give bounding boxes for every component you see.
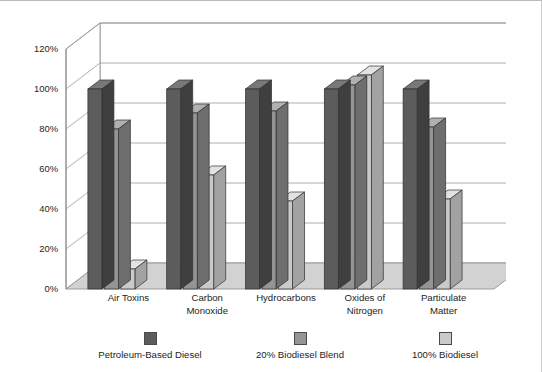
y-tick-label: 120% xyxy=(18,44,58,54)
y-tick-label: 100% xyxy=(18,84,58,94)
bar-side-face xyxy=(260,80,272,289)
legend-item[interactable]: 100% Biodiesel xyxy=(370,332,520,360)
legend-swatch-icon xyxy=(294,332,307,345)
legend-swatch-icon xyxy=(144,332,157,345)
y-tick-label: 20% xyxy=(18,244,58,254)
bar-2-0 xyxy=(246,80,272,289)
bar-side-face xyxy=(417,80,429,289)
x-category-label-line: Particulate xyxy=(396,291,492,304)
bar-4-0 xyxy=(403,80,429,289)
bar-0-0 xyxy=(88,80,114,289)
y-tick-label: 60% xyxy=(18,164,58,174)
bar-side-face xyxy=(355,76,367,289)
bar-side-face xyxy=(450,190,462,289)
legend-label: 20% Biodiesel Blend xyxy=(225,349,375,360)
legend-item[interactable]: 20% Biodiesel Blend xyxy=(225,332,375,360)
plot-svg xyxy=(58,15,506,301)
bar-side-face xyxy=(118,120,130,289)
plot-area xyxy=(58,15,506,301)
bar-side-face xyxy=(102,80,114,289)
bar-front-face xyxy=(246,89,260,289)
y-tick-label: 80% xyxy=(18,124,58,134)
bar-front-face xyxy=(324,89,338,289)
bar-side-face xyxy=(197,104,209,289)
x-category-label: ParticulateMatter xyxy=(396,291,492,317)
bar-front-face xyxy=(167,89,181,289)
bar-front-face xyxy=(403,89,417,289)
bar-front-face xyxy=(88,89,102,289)
x-category-label-line: Matter xyxy=(396,304,492,317)
y-tick-label: 0% xyxy=(18,284,58,294)
legend-swatch-icon xyxy=(439,332,452,345)
bar-side-face xyxy=(181,80,193,289)
bar-side-face xyxy=(434,118,446,289)
x-category-label-line: Monoxide xyxy=(159,304,255,317)
legend-item[interactable]: Petroleum-Based Diesel xyxy=(75,332,225,360)
bar-1-0 xyxy=(167,80,193,289)
chart-figure: Percentage of Emission Compared to Petro… xyxy=(0,0,542,372)
bar-side-face xyxy=(338,80,350,289)
bar-side-face xyxy=(214,166,226,289)
y-tick-label: 40% xyxy=(18,204,58,214)
bar-side-face xyxy=(276,102,288,289)
bar-side-face xyxy=(293,192,305,289)
legend-label: 100% Biodiesel xyxy=(370,349,520,360)
bar-3-0 xyxy=(324,80,350,289)
bar-side-face xyxy=(371,66,383,289)
x-axis-category-labels: Air ToxinsCarbonMonoxideHydrocarbonsOxid… xyxy=(58,287,506,333)
legend-label: Petroleum-Based Diesel xyxy=(75,349,225,360)
y-axis-tick-labels: 0%20%40%60%80%100%120% xyxy=(16,1,58,372)
chart-legend: Petroleum-Based Diesel20% Biodiesel Blen… xyxy=(40,332,510,372)
